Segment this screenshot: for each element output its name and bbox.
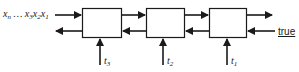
box-3: [210, 9, 247, 38]
t2-label: t2: [167, 56, 173, 68]
box-1: [83, 9, 122, 38]
t2-sub: 2: [170, 60, 174, 68]
input-sequence-label: xn … x3x2x1: [3, 9, 49, 21]
x-1-sub: 1: [45, 13, 49, 21]
t1-sub: 1: [234, 60, 238, 68]
t3-label: t3: [104, 56, 110, 68]
ellipsis: …: [11, 8, 25, 19]
box-2: [147, 9, 185, 38]
true-label: true: [278, 27, 295, 37]
t1-label: t1: [231, 56, 237, 68]
t3-sub: 3: [107, 60, 111, 68]
